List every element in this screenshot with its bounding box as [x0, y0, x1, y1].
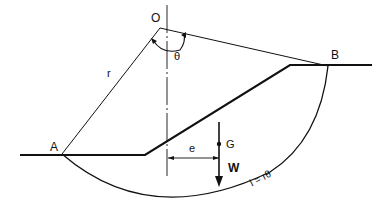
label-point-a: A	[50, 140, 58, 154]
label-eccentricity: e	[189, 142, 195, 154]
centroid-point	[217, 142, 221, 146]
label-centroid: G	[226, 138, 235, 150]
label-weight: W	[228, 161, 240, 175]
radius-line-oa	[62, 28, 160, 154]
weight-arrowhead	[215, 176, 223, 187]
e-arrowhead-left	[168, 156, 174, 160]
ground-profile	[20, 65, 372, 155]
e-arrowhead-right	[213, 156, 219, 160]
angle-arrowhead-left	[151, 38, 157, 44]
theta-angle-arc	[153, 33, 185, 51]
label-arc-length: l = rθ	[248, 168, 273, 188]
slope-stability-diagram: O θ r A B G W e l = rθ	[0, 0, 390, 202]
label-center-o: O	[151, 11, 160, 25]
label-theta: θ	[174, 50, 180, 62]
label-point-b: B	[331, 48, 339, 62]
label-radius: r	[107, 67, 111, 79]
slip-arc	[62, 66, 328, 197]
